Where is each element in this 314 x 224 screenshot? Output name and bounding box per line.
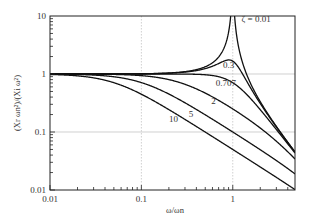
x-tick-label: 0.1: [136, 194, 147, 204]
curve-labels: ζ = 0.010.30.7072510: [169, 14, 271, 124]
y-axis-label: (Xr ωn²)/(Xi ω²): [12, 75, 22, 131]
curve-label: 10: [169, 114, 179, 124]
x-axis-label: ω/ωn: [166, 205, 185, 215]
tick-labels: 0.010.110.010.1110: [30, 11, 235, 204]
curve-zeta-5: [50, 74, 295, 174]
curve-label: 0.707: [216, 78, 237, 88]
y-tick-label: 0.1: [35, 127, 46, 137]
grid-lines: [50, 16, 295, 190]
response-chart: 0.010.110.010.1110 ζ = 0.010.30.7072510 …: [0, 0, 314, 224]
y-tick-label: 10: [37, 11, 47, 21]
curves: [50, 0, 295, 190]
y-tick-label: 1: [42, 69, 47, 79]
curve-label: 0.3: [223, 60, 235, 70]
curve-label: ζ = 0.01: [242, 14, 271, 24]
y-tick-label: 0.01: [30, 185, 46, 195]
curve-label: 5: [189, 109, 194, 119]
plot-frame: [50, 16, 295, 190]
axis-ticks: [50, 19, 288, 190]
x-tick-label: 0.01: [42, 194, 58, 204]
curve-label: 2: [211, 96, 216, 106]
x-tick-label: 1: [231, 194, 236, 204]
